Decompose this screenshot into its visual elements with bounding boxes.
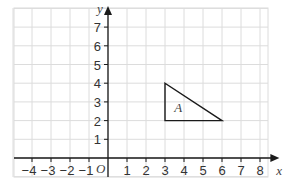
x-tick-label: 1 [123, 163, 130, 178]
x-tick-label: 8 [256, 163, 263, 178]
x-tick-label: −4 [22, 163, 37, 178]
x-tick-label: −1 [79, 163, 94, 178]
origin-label: O [96, 161, 106, 176]
y-tick-label: 3 [94, 95, 101, 110]
x-tick-label: 3 [161, 163, 168, 178]
y-axis-label: y [95, 1, 103, 16]
x-tick-label: −2 [60, 163, 75, 178]
x-tick-label: 7 [237, 163, 244, 178]
y-tick-label: 2 [94, 114, 101, 129]
x-tick-label: −3 [41, 163, 56, 178]
y-tick-label: 6 [94, 39, 101, 54]
x-tick-label: 5 [199, 163, 206, 178]
x-tick-label: 4 [180, 163, 187, 178]
y-axis-arrow-icon [104, 6, 112, 15]
y-tick-label: 4 [94, 76, 101, 91]
coordinate-plane: −4−3−2−1123456781234567xyOA [0, 0, 289, 186]
x-tick-label: 6 [218, 163, 225, 178]
triangle-a-label: A [173, 100, 182, 115]
x-axis-label: x [275, 163, 282, 178]
x-axis-arrow-icon [270, 154, 279, 162]
y-tick-label: 1 [94, 132, 101, 147]
y-tick-label: 5 [94, 58, 101, 73]
y-tick-label: 7 [94, 20, 101, 35]
grid-border [14, 8, 268, 177]
x-tick-label: 2 [142, 163, 149, 178]
